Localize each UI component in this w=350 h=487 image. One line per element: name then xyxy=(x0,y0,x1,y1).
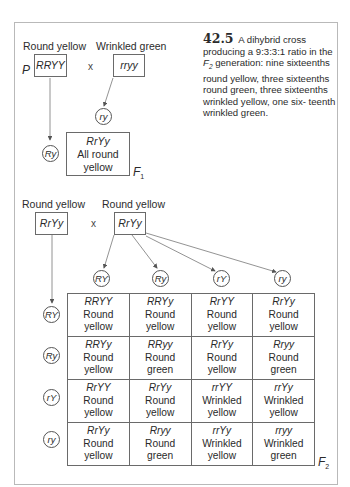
punnett-cell: RrYYRoundyellow xyxy=(68,380,130,423)
p-generation-label: P xyxy=(22,63,30,77)
punnett-cell: rrYyWrinkledyellow xyxy=(253,380,315,423)
row-gamete-2: Ry xyxy=(43,347,60,364)
punnett-cell: RRYYRoundyellow xyxy=(68,294,130,337)
f1-parent1-phenotype: Round yellow xyxy=(22,198,85,210)
f2-generation-label: F2 xyxy=(318,455,329,470)
punnett-cell: RrYyRoundyellow xyxy=(191,337,253,380)
parent1-genotype-box: RRYY xyxy=(34,54,67,77)
column-gamete-2: Ry xyxy=(152,270,169,287)
f1-parent1-genotype-box: RrYy xyxy=(35,212,68,235)
gamete-label: ry xyxy=(100,111,108,122)
punnett-row: RrYyRoundyellow RryyRoundgreen rrYyWrink… xyxy=(68,423,315,466)
gamete-circle-parent2: ry xyxy=(95,108,112,125)
punnett-cell: RryyRoundgreen xyxy=(253,337,315,380)
f1-parent2-genotype-box: RrYy xyxy=(114,212,146,235)
punnett-cell: RRyyRoundgreen xyxy=(129,337,191,380)
cross-symbol-p: x xyxy=(88,61,93,72)
f1-phenotype-line2: yellow xyxy=(83,161,112,174)
punnett-square: RRYYRoundyellow RRYyRoundyellow RrYYRoun… xyxy=(67,293,315,466)
punnett-cell: RRYyRoundyellow xyxy=(68,337,130,380)
parent1-genotype: RRYY xyxy=(36,59,65,72)
row-gamete-1: RY xyxy=(43,306,60,323)
figure-caption: 42.5 A dihybrid cross producing a 9:3:3:… xyxy=(203,33,341,119)
punnett-row: RRYyRoundyellow RRyyRoundgreen RrYyRound… xyxy=(68,337,315,380)
punnett-cell: RRYyRoundyellow xyxy=(129,294,191,337)
f1-genotype: RrYy xyxy=(86,135,109,148)
column-gamete-3: rY xyxy=(213,270,230,287)
gamete-circle-parent1: Ry xyxy=(42,145,59,162)
gamete-label: Ry xyxy=(45,148,57,159)
row-gamete-3: rY xyxy=(43,389,60,406)
f1-parent1-genotype: RrYy xyxy=(40,217,63,230)
f1-parent2-phenotype: Round yellow xyxy=(102,198,165,210)
parent1-phenotype: Round yellow xyxy=(23,40,86,52)
punnett-cell: RrYyRoundyellow xyxy=(129,380,191,423)
f1-parent2-genotype: RrYy xyxy=(118,217,141,230)
punnett-row: RrYYRoundyellow RrYyRoundyellow rrYYWrin… xyxy=(68,380,315,423)
cross-symbol-f1: x xyxy=(91,218,96,229)
punnett-cell: RrYyRoundyellow xyxy=(253,294,315,337)
column-gamete-1: RY xyxy=(93,270,110,287)
punnett-cell: rrYYWrinkledyellow xyxy=(191,380,253,423)
punnett-cell: RrYyRoundyellow xyxy=(68,423,130,466)
f1-generation-label: F1 xyxy=(133,165,144,180)
punnett-cell: RrYYRoundyellow xyxy=(191,294,253,337)
parent2-genotype-box: rryy xyxy=(113,54,145,77)
figure-number: 42.5 xyxy=(203,31,233,46)
punnett-row: RRYYRoundyellow RRYyRoundyellow RrYYRoun… xyxy=(68,294,315,337)
punnett-cell: rrYyWrinkledyellow xyxy=(191,423,253,466)
parent2-phenotype: Wrinkled green xyxy=(96,40,166,52)
parent2-genotype: rryy xyxy=(120,59,138,72)
row-gamete-4: ry xyxy=(43,431,60,448)
punnett-cell: rryyWrinkledgreen xyxy=(253,423,315,466)
f1-offspring-box: RrYy All round yellow xyxy=(66,132,130,176)
f1-phenotype-line1: All round xyxy=(77,148,118,161)
column-gamete-4: ry xyxy=(274,270,291,287)
punnett-cell: RryyRoundgreen xyxy=(129,423,191,466)
